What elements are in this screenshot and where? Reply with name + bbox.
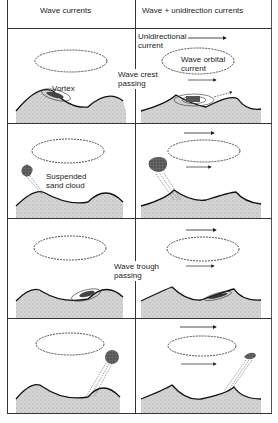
row2-right-diagram — [136, 124, 272, 218]
wave-orbital-current-label: Wave orbital current — [181, 55, 225, 73]
row3-right-diagram — [136, 219, 272, 318]
row4-left-diagram — [8, 319, 135, 414]
row4-right-diagram — [136, 319, 272, 414]
unidirectional-current-label: Unidirectional current — [138, 32, 186, 50]
suspended-sand-cloud-label: Suspended sand cloud — [46, 172, 86, 190]
orbital-ellipse — [35, 50, 107, 72]
row1-left-diagram — [8, 29, 135, 123]
header-wave-unidirection-currents: Wave + unidirection currents — [142, 6, 243, 15]
row2-left-diagram — [8, 124, 135, 218]
wave-crest-passing-label: Wave crest passing — [118, 69, 158, 89]
header-wave-currents: Wave currents — [40, 6, 91, 15]
vortex-label: Vortex — [52, 84, 75, 93]
